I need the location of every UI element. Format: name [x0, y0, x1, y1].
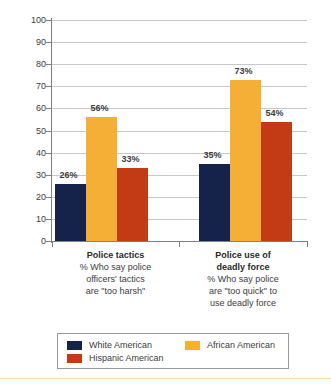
bar-value-white-american-deadly-force: 35%: [195, 151, 230, 160]
gridline-100: [52, 20, 307, 21]
legend-swatch-hispanic-american: [67, 354, 82, 363]
category-sub2-deadly-force: are "too quick" to: [179, 285, 307, 297]
bar-hispanic-american-police-tactics: [117, 168, 148, 241]
bar-value-white-american-police-tactics: 26%: [51, 171, 86, 180]
x-axis-line: [52, 241, 308, 242]
category-title-police-tactics: Police tactics: [52, 249, 179, 261]
legend-item-hispanic-american[interactable]: Hispanic American: [67, 354, 164, 363]
category-title1-deadly-force: Police use of: [179, 249, 307, 261]
category-sub2-police-tactics: officers' tactics: [52, 273, 179, 285]
legend-label-african-american: African American: [207, 341, 275, 350]
gridline-70: [52, 86, 307, 87]
bottom-divider-rule: [0, 378, 331, 379]
y-tick-60: 60: [4, 104, 46, 113]
y-tick-30: 30: [4, 171, 46, 180]
bar-value-african-american-police-tactics: 56%: [82, 104, 117, 113]
gridline-90: [52, 42, 307, 43]
y-tick-80: 80: [4, 60, 46, 69]
plot-area: 26% 56% 33% 35% 73% 54%: [52, 20, 307, 241]
bar-hispanic-american-deadly-force: [261, 122, 292, 241]
category-sub3-police-tactics: are "too harsh": [52, 285, 179, 297]
y-tick-50: 50: [4, 127, 46, 136]
bar-african-american-police-tactics: [86, 117, 117, 241]
y-tick-10: 10: [4, 215, 46, 224]
y-tick-0: 0: [4, 237, 46, 246]
legend-item-african-american[interactable]: African American: [185, 341, 275, 350]
legend-label-white-american: White American: [89, 341, 152, 350]
bar-white-american-deadly-force: [199, 164, 230, 241]
x-tick-end: [307, 241, 308, 247]
legend-swatch-african-american: [185, 341, 200, 350]
category-title2-deadly-force: deadly force: [179, 261, 307, 273]
y-tick-100: 100: [4, 16, 46, 25]
category-label-police-tactics: Police tactics % Who say police officers…: [52, 249, 179, 297]
y-axis-tick-labels: 100 90 80 70 60 50 40 30 20 10 0: [0, 20, 46, 241]
bar-value-hispanic-american-police-tactics: 33%: [113, 155, 148, 164]
y-tick-20: 20: [4, 193, 46, 202]
x-tick-middle: [179, 241, 180, 247]
legend: White American Hispanic American African…: [57, 333, 289, 369]
y-tick-90: 90: [4, 38, 46, 47]
bar-value-african-american-deadly-force: 73%: [226, 67, 261, 76]
legend-label-hispanic-american: Hispanic American: [89, 354, 164, 363]
y-tick-70: 70: [4, 82, 46, 91]
category-sub1-deadly-force: % Who say police: [179, 273, 307, 285]
y-tick-40: 40: [4, 149, 46, 158]
legend-swatch-white-american: [67, 341, 82, 350]
bar-chart-figure: 100 90 80 70 60 50 40 30 20 10 0: [0, 0, 331, 386]
category-sub1-police-tactics: % Who say police: [52, 261, 179, 273]
x-tick-start: [52, 241, 53, 247]
legend-item-white-american[interactable]: White American: [67, 341, 152, 350]
category-label-deadly-force: Police use of deadly force % Who say pol…: [179, 249, 307, 309]
category-sub3-deadly-force: use deadly force: [179, 297, 307, 309]
bar-value-hispanic-american-deadly-force: 54%: [257, 109, 292, 118]
bar-african-american-deadly-force: [230, 80, 261, 241]
gridline-80: [52, 64, 307, 65]
bar-white-american-police-tactics: [55, 184, 86, 242]
